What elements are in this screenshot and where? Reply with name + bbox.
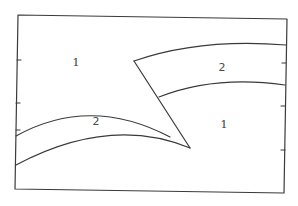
region-label-upper-left: 1 <box>73 56 80 69</box>
region-label-lower-right: 1 <box>221 118 228 131</box>
upper-band-bottom-curve <box>159 82 285 97</box>
fault-line <box>134 61 190 148</box>
diagram-svg: 1 2 2 1 <box>0 0 298 206</box>
region-label-lower-band: 2 <box>93 115 100 128</box>
frame-border <box>15 15 287 193</box>
diagram-canvas: 1 2 2 1 <box>0 0 298 206</box>
upper-band-top-curve <box>134 43 286 61</box>
region-label-upper-band: 2 <box>219 61 226 74</box>
lower-band-bottom-curve <box>16 135 190 165</box>
